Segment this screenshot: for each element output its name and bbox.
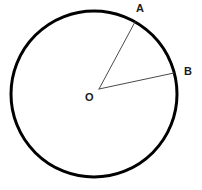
figure-background bbox=[0, 0, 202, 190]
point-label-b: B bbox=[184, 66, 192, 77]
circle-diagram-canvas bbox=[0, 0, 202, 190]
point-label-a: A bbox=[136, 3, 144, 14]
center-label-o: O bbox=[85, 92, 94, 103]
circle-diagram-figure: A B O bbox=[0, 0, 202, 190]
